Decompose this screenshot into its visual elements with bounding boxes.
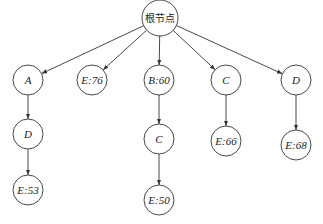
node-e76: E:76	[77, 65, 107, 95]
root-node: 根节点	[142, 0, 178, 36]
node-c2: C	[144, 124, 174, 154]
node-d2: D	[13, 119, 43, 149]
node-d1: D	[281, 65, 311, 95]
node-c2-label: C	[155, 133, 163, 145]
node-c1: C	[211, 65, 241, 95]
node-e53-label: E:53	[16, 184, 39, 196]
edge-root-to-e76	[103, 30, 147, 70]
node-e53: E:53	[13, 175, 43, 205]
node-e68: E:68	[281, 130, 311, 160]
edge-root-to-c1	[173, 30, 215, 69]
node-e66-label: E:66	[214, 135, 237, 147]
node-c1-label: C	[222, 74, 230, 86]
node-d2-label: D	[23, 128, 32, 140]
node-a: A	[13, 65, 43, 95]
tree-diagram: 根节点 A E:76 B:60 C D D C E:66 E:68 E:53	[0, 0, 323, 224]
node-e68-label: E:68	[284, 139, 307, 151]
node-e66: E:66	[211, 126, 241, 156]
node-b60-label: B:60	[148, 74, 170, 86]
edges	[28, 26, 296, 186]
edge-root-to-b60	[159, 36, 160, 65]
node-e76-label: E:76	[80, 74, 103, 86]
root-node-label: 根节点	[145, 12, 175, 24]
node-e50: E:50	[144, 185, 174, 215]
node-e50-label: E:50	[147, 194, 170, 206]
node-a-label: A	[24, 74, 32, 86]
node-d1-label: D	[291, 74, 300, 86]
node-b60: B:60	[144, 65, 174, 95]
